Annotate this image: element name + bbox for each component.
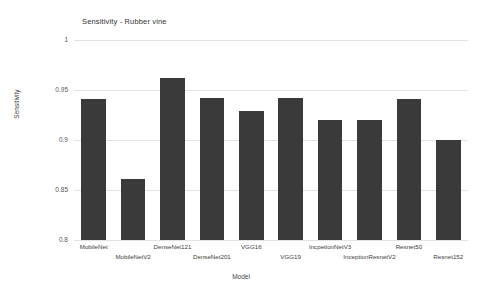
- y-axis-title: Sensitivity: [13, 74, 20, 134]
- bar: [397, 99, 421, 240]
- chart-container: Sensitivity - Rubber vine Sensitivity 10…: [0, 0, 482, 291]
- x-axis-tick-label: DenseNet201: [193, 253, 231, 260]
- bar: [278, 98, 302, 240]
- bar-series: [74, 40, 468, 240]
- x-axis-tick-label: Resnet50: [396, 243, 423, 250]
- y-axis-tick-label: 0.8: [30, 236, 68, 243]
- bar: [160, 78, 184, 240]
- y-axis-tick-label: 0.9: [30, 136, 68, 143]
- bar: [239, 111, 263, 240]
- x-axis-tick-label: VGG16: [241, 243, 262, 250]
- x-axis-title: Model: [0, 273, 482, 280]
- bar: [436, 140, 460, 240]
- y-axis-tick-label: 0.95: [30, 86, 68, 93]
- bar: [357, 120, 381, 240]
- bar: [121, 179, 145, 240]
- x-axis-tick-label: MobileNetV2: [115, 253, 150, 260]
- bar: [200, 98, 224, 240]
- x-axis-tick-label: InceptionResnetV2: [343, 253, 395, 260]
- bar: [81, 99, 105, 240]
- bar: [318, 120, 342, 240]
- x-axis-tick-label: DenseNet121: [154, 243, 192, 250]
- y-axis-tick-label: 0.85: [30, 186, 68, 193]
- x-axis-tick-label: VGG19: [280, 253, 301, 260]
- x-axis-tick-label: MobileNet: [80, 243, 108, 250]
- x-axis-tick-label: Resnet152: [433, 253, 463, 260]
- y-axis-tick-label: 1: [30, 36, 68, 43]
- x-axis-tick-label: IncpetionNetV3: [309, 243, 351, 250]
- chart-title: Sensitivity - Rubber vine: [82, 17, 167, 26]
- plot-area: 10.950.90.850.8: [74, 40, 468, 240]
